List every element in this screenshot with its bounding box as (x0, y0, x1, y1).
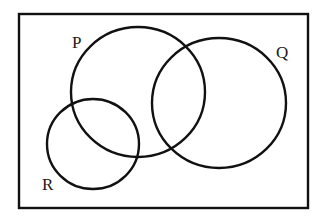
set-q-label: Q (276, 43, 288, 62)
set-q-circle (152, 38, 286, 168)
set-p-label: P (72, 33, 81, 52)
set-r-label: R (42, 175, 54, 194)
venn-diagram: P Q R (0, 0, 320, 220)
set-r-circle (47, 99, 139, 189)
